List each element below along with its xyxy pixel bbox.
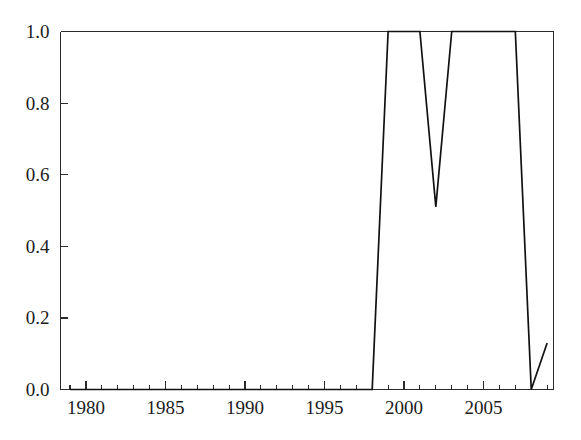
x-tick-label: 1985 <box>146 397 184 418</box>
y-tick-label: 0.4 <box>26 236 50 257</box>
tick-marks <box>61 32 548 390</box>
y-tick-label: 0.8 <box>26 93 50 114</box>
data-series <box>70 32 547 390</box>
x-tick-label: 2005 <box>465 397 503 418</box>
series-line-proportion <box>70 32 547 390</box>
line-chart-plot: 0.00.20.40.60.81.01980198519901995200020… <box>0 0 581 440</box>
x-tick-label: 1980 <box>67 397 105 418</box>
y-tick-label: 0.0 <box>26 379 50 400</box>
x-tick-label: 1990 <box>226 397 264 418</box>
y-tick-label: 0.6 <box>26 164 50 185</box>
y-tick-label: 1.0 <box>26 21 50 42</box>
x-tick-label: 2000 <box>385 397 423 418</box>
x-tick-label: 1995 <box>305 397 343 418</box>
chart-figure: 0.00.20.40.60.81.01980198519901995200020… <box>0 0 581 440</box>
axes <box>61 32 554 390</box>
tick-labels: 0.00.20.40.60.81.01980198519901995200020… <box>26 21 503 418</box>
y-tick-label: 0.2 <box>26 307 50 328</box>
